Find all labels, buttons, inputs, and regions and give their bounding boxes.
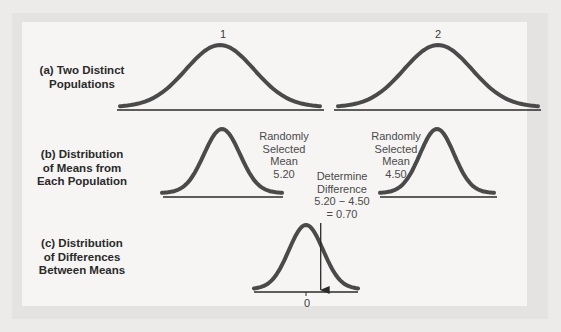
- differences-curve: [254, 225, 358, 288]
- means-1-curve: [162, 129, 282, 193]
- diagram-canvas: [0, 0, 561, 332]
- means-2-curve: [380, 129, 494, 193]
- population-2-curve: [338, 45, 538, 106]
- population-1-curve: [120, 45, 320, 106]
